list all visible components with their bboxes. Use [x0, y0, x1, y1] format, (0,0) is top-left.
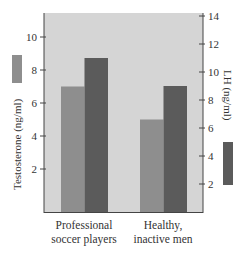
bar-testosterone — [61, 87, 85, 213]
tick-label: 10 — [26, 31, 38, 43]
tick-label: 4 — [32, 130, 38, 142]
left-axis-ticks: 246810 — [26, 31, 46, 175]
tick-label: 8 — [208, 94, 214, 106]
category-labels: Professionalsoccer playersHealthy,inacti… — [51, 219, 193, 246]
bar-testosterone — [140, 120, 164, 213]
tick-label: 2 — [32, 163, 38, 175]
legend-swatch-testosterone — [12, 55, 22, 83]
category-label: Professional — [56, 219, 113, 231]
category-label: soccer players — [51, 233, 117, 246]
tick-label: 10 — [208, 66, 220, 78]
tick-label: 8 — [32, 64, 38, 76]
category-label: inactive men — [133, 233, 192, 245]
right-axis-title: LH (ng/ml) — [221, 70, 234, 121]
tick-label: 6 — [32, 97, 38, 109]
bar-chart: 246810 2468101214 Professionalsoccer pla… — [0, 0, 246, 255]
left-axis-title: Testosterone (ng/ml) — [11, 98, 24, 190]
tick-label: 4 — [208, 150, 214, 162]
tick-label: 2 — [208, 178, 214, 190]
tick-label: 6 — [208, 122, 214, 134]
category-label: Healthy, — [144, 219, 183, 232]
tick-label: 12 — [208, 38, 219, 50]
bar-lh — [164, 86, 188, 213]
bar-lh — [85, 58, 109, 213]
tick-label: 14 — [208, 10, 220, 22]
legend-swatch-lh — [223, 142, 233, 185]
